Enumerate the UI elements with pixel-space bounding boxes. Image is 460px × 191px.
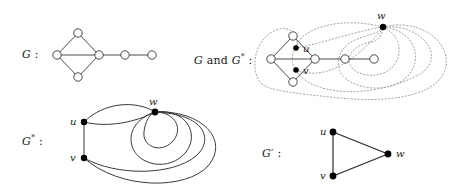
edge-gprime-u-w bbox=[333, 132, 388, 154]
vertex-gprime-w bbox=[385, 151, 392, 158]
vertex-gprime-v bbox=[330, 173, 337, 180]
graph-figure: G : G and G* : bbox=[0, 0, 460, 191]
vertex-label-gprime-u: u bbox=[320, 126, 326, 137]
panel-gprime-drawing bbox=[0, 0, 460, 191]
vertex-gprime-u bbox=[330, 129, 337, 136]
vertex-label-gprime-v: v bbox=[320, 170, 326, 181]
edge-gprime-v-w bbox=[333, 154, 388, 176]
vertex-label-gprime-w: w bbox=[396, 148, 405, 159]
